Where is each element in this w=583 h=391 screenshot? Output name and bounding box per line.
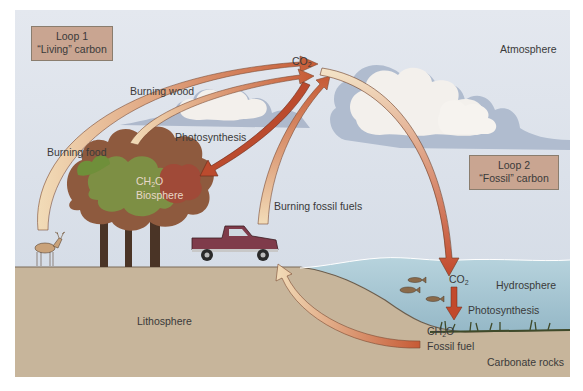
loop-2-title: Loop 2	[470, 159, 558, 172]
co2-hydrosphere-label: CO2	[449, 274, 469, 286]
loop-1-box: Loop 1 “Living” carbon	[31, 26, 113, 61]
loop-1-subtitle: “Living” carbon	[32, 43, 112, 56]
burning-food-label: Burning food	[47, 147, 107, 159]
photosynthesis-water-label: Photosynthesis	[468, 305, 539, 317]
co2-atmosphere-label: CO2	[292, 56, 312, 68]
loop-2-box: Loop 2 “Fossil” carbon	[469, 155, 559, 190]
loop-2-subtitle: “Fossil” carbon	[470, 172, 558, 185]
ch2o-fossil-label: CH2O	[427, 326, 454, 338]
hydrosphere-label: Hydrosphere	[496, 280, 556, 292]
biosphere-label: Biosphere	[136, 190, 183, 202]
burning-fossil-fuels-label: Burning fossil fuels	[274, 201, 362, 213]
lithosphere-label: Lithosphere	[137, 316, 192, 328]
carbonate-rocks-label: Carbonate rocks	[487, 357, 564, 369]
photosynthesis-land-label: Photosynthesis	[175, 132, 246, 144]
fossil-fuel-label: Fossil fuel	[427, 341, 474, 353]
loop-1-title: Loop 1	[32, 30, 112, 43]
ch2o-biosphere-label: CH2O	[136, 176, 163, 188]
burning-wood-label: Burning wood	[130, 86, 194, 98]
atmosphere-label: Atmosphere	[500, 44, 557, 56]
